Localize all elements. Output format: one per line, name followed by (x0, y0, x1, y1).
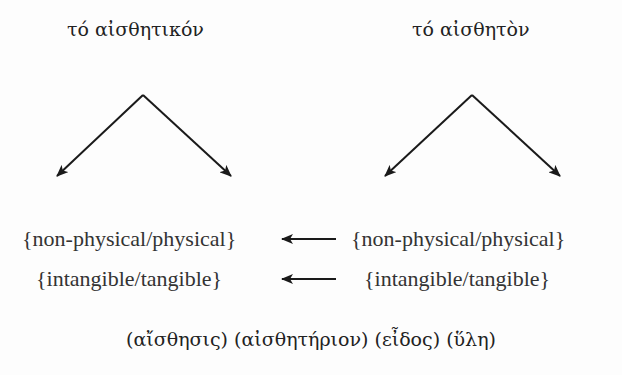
bottom-greek-terms: (αἴσθησις) (αἰσθητήριον) (εἶδος) (ὕλη) (0, 330, 622, 349)
row-1-left-label: {non-physical/physical} (22, 228, 236, 250)
arrow-layer (0, 0, 622, 375)
right-branch-arrow-right (472, 95, 560, 176)
left-branch-arrow-left (57, 95, 143, 176)
heading-aistheton: τό αἰσθητὸν (412, 20, 530, 39)
row-1-right-label: {non-physical/physical} (351, 228, 565, 250)
row-2-left-label: {intangible/tangible} (36, 268, 222, 290)
left-branch-arrows (57, 95, 231, 176)
heading-aisthetikon: τό αἰσθητικόν (67, 20, 204, 39)
left-branch-arrow-right (143, 95, 231, 176)
right-branch-arrows (385, 95, 560, 176)
right-branch-arrow-left (385, 95, 472, 176)
row-2-right-label: {intangible/tangible} (364, 268, 550, 290)
